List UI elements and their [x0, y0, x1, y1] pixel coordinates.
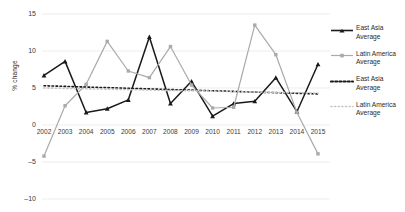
data-point-marker	[147, 35, 152, 39]
legend-swatch-1	[330, 52, 354, 59]
x-axis-tick: 2005	[96, 128, 118, 135]
x-axis-tick: 2010	[202, 128, 224, 135]
x-axis-tick: 2014	[286, 128, 308, 135]
data-point-marker	[295, 111, 298, 114]
data-point-marker	[316, 62, 321, 66]
data-point-marker	[190, 83, 193, 86]
x-axis-tick: 2012	[244, 128, 266, 135]
x-axis-tick: 2009	[181, 128, 203, 135]
legend-label-line2: Average	[356, 84, 404, 93]
y-axis-tick: 5	[14, 84, 36, 91]
y-axis-tick: 10	[14, 47, 36, 54]
legend-label-line2: Average	[356, 109, 404, 118]
chart-container: % change 151050–5–10 2002200320042005200…	[0, 0, 405, 212]
legend-swatch-0	[330, 27, 354, 34]
legend-item-0[interactable]: East AsiaAverage	[330, 24, 404, 41]
data-point-marker	[63, 59, 68, 63]
data-point-marker	[316, 152, 319, 155]
legend-item-2[interactable]: East AsiaAverage	[330, 75, 404, 92]
legend-label-line1: Latin America	[356, 50, 404, 59]
legend-item-3[interactable]: Latin AmericaAverage	[330, 101, 404, 118]
x-axis-tick: 2002	[33, 128, 55, 135]
data-point-marker	[253, 23, 256, 26]
data-point-marker	[127, 69, 130, 72]
x-axis-tick: 2006	[117, 128, 139, 135]
data-point-marker	[232, 106, 235, 109]
legend-swatch-2	[330, 78, 354, 85]
y-axis-tick: 0	[14, 121, 36, 128]
x-axis-tick: 2013	[265, 128, 287, 135]
x-axis-tick: 2003	[54, 128, 76, 135]
x-axis-tick: 2011	[223, 128, 245, 135]
data-point-marker	[148, 76, 151, 79]
data-point-marker	[169, 45, 172, 48]
data-point-marker	[126, 97, 131, 101]
data-point-marker	[106, 40, 109, 43]
data-point-marker	[211, 106, 214, 109]
data-point-marker	[42, 154, 45, 157]
y-axis-tick: –10	[14, 195, 36, 202]
data-point-marker	[274, 53, 277, 56]
data-point-marker	[63, 104, 66, 107]
legend-swatch-3	[330, 103, 354, 110]
chart-legend: East AsiaAverageLatin AmericaAverageEast…	[330, 24, 404, 126]
legend-label-line2: Average	[356, 33, 404, 42]
x-axis-tick: 2007	[138, 128, 160, 135]
data-point-marker	[84, 83, 87, 86]
x-axis-tick: 2004	[75, 128, 97, 135]
series-line-0	[44, 37, 318, 116]
legend-label-line1: East Asia	[356, 75, 404, 84]
legend-item-1[interactable]: Latin AmericaAverage	[330, 50, 404, 67]
data-point-marker	[273, 75, 278, 79]
legend-label-line2: Average	[356, 58, 404, 67]
legend-label-line1: East Asia	[356, 24, 404, 33]
x-axis-tick: 2008	[159, 128, 181, 135]
x-axis-tick: 2015	[307, 128, 329, 135]
legend-label-line1: Latin America	[356, 101, 404, 110]
y-axis-tick: 15	[14, 10, 36, 17]
y-axis-tick: –5	[14, 158, 36, 165]
